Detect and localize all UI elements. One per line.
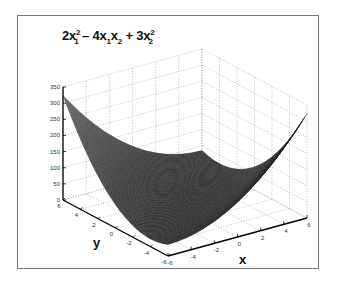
y-tick <box>116 226 118 228</box>
z-tick-label: 250 <box>50 116 61 122</box>
y-axis-label: y <box>93 235 100 250</box>
y-tick-label: 0 <box>110 231 114 237</box>
x-tick-label: -6 <box>167 260 173 266</box>
y-tick <box>133 235 135 237</box>
z-tick-label: 100 <box>50 165 61 171</box>
y-tick-label: 4 <box>75 212 79 218</box>
y-tick <box>98 217 100 219</box>
surface-plot: 050100150200250300350-6-4-20246-6-4-2024… <box>0 0 337 283</box>
y-tick-label: -4 <box>144 250 150 256</box>
y-tick-label: 2 <box>92 222 96 228</box>
y-tick-label: 6 <box>57 203 61 209</box>
x-tick-label: 4 <box>284 228 288 234</box>
y-tick <box>151 245 153 247</box>
z-tick-label: 150 <box>50 149 61 155</box>
y-tick <box>81 207 83 209</box>
z-tick-label: 200 <box>50 132 61 138</box>
z-tick-label: 50 <box>53 181 60 187</box>
chart-title: 2x21 – 4x1x2 + 3x22 <box>62 28 153 46</box>
y-tick-label: -2 <box>126 240 132 246</box>
x-tick-label: 6 <box>307 222 311 228</box>
x-tick-label: 0 <box>238 241 242 247</box>
z-tick-label: 350 <box>50 84 61 90</box>
x-axis-label: x <box>239 252 246 267</box>
x-tick-label: 2 <box>261 235 265 241</box>
x-tick-label: -4 <box>190 254 196 260</box>
surface-mesh <box>63 95 307 244</box>
x-tick-label: -2 <box>214 247 220 253</box>
z-tick-label: 300 <box>50 100 61 106</box>
